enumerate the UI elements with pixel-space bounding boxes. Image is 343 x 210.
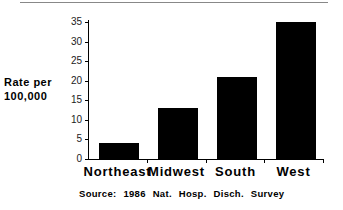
x-category-label: West: [252, 164, 335, 179]
y-axis-label-line2: 100,000: [4, 89, 52, 103]
x-tick: [147, 159, 148, 163]
y-tick-label: 5: [60, 134, 82, 144]
y-tick: [85, 100, 89, 101]
y-tick-label: 10: [60, 115, 82, 125]
bar-west: [276, 22, 316, 159]
y-tick: [85, 139, 89, 140]
bar-south: [217, 77, 257, 159]
y-tick-label: 15: [60, 95, 82, 105]
y-tick: [85, 42, 89, 43]
y-tick: [85, 61, 89, 62]
y-tick: [85, 159, 89, 160]
top-rule: [20, 2, 328, 3]
x-tick: [206, 159, 207, 163]
y-axis-label: Rate per 100,000: [4, 75, 52, 103]
bar-midwest: [158, 108, 198, 159]
y-tick-label: 25: [60, 56, 82, 66]
y-tick: [85, 120, 89, 121]
y-tick: [85, 81, 89, 82]
y-tick: [85, 22, 89, 23]
x-tick: [264, 159, 265, 163]
y-tick-label: 30: [60, 37, 82, 47]
y-tick-label: 20: [60, 76, 82, 86]
source-note: Source: 1986 Nat. Hosp. Disch. Survey: [79, 188, 284, 199]
y-tick-label: 0: [60, 154, 82, 164]
y-axis-label-line1: Rate per: [4, 75, 52, 89]
x-tick: [323, 159, 324, 163]
bar-northeast: [99, 143, 139, 159]
y-tick-label: 35: [60, 17, 82, 27]
